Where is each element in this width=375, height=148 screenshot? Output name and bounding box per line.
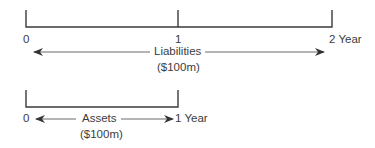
assets-end-label: 1 Year bbox=[175, 113, 208, 125]
liabilities-tick-2-year: 2 Year bbox=[329, 34, 362, 46]
timeline-diagram bbox=[0, 0, 375, 148]
assets-amount: ($100m) bbox=[80, 129, 123, 141]
liabilities-label: Liabilities bbox=[154, 46, 201, 58]
liabilities-tick-1: 1 bbox=[175, 34, 181, 46]
liabilities-amount: ($100m) bbox=[157, 62, 200, 74]
liabilities-tick-0: 0 bbox=[23, 34, 29, 46]
assets-label: Assets bbox=[82, 113, 117, 125]
assets-timeline-axis bbox=[26, 90, 178, 107]
liabilities-timeline-axis bbox=[26, 10, 332, 27]
assets-start-label: 0 bbox=[23, 113, 29, 125]
